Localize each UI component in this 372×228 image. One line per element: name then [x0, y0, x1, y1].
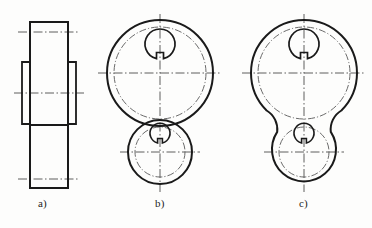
drawing-canvas [0, 0, 372, 228]
caption-view-a: a) [38, 197, 47, 209]
view-a-group [14, 22, 84, 188]
view-c-group [242, 14, 366, 192]
caption-view-b: b) [155, 197, 165, 209]
view-b-group [98, 14, 222, 192]
body-outline [30, 22, 68, 188]
technical-drawing-figure: a) b) c) [0, 0, 372, 228]
caption-view-c: c) [299, 197, 308, 209]
